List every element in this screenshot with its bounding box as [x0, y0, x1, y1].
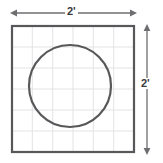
arrowhead-down-icon	[144, 148, 151, 155]
arrowhead-right-icon	[130, 10, 137, 17]
height-dimension-label: 2'	[139, 78, 152, 89]
arrowhead-up-icon	[144, 24, 151, 31]
arrowhead-left-icon	[10, 10, 17, 17]
height-dimension	[144, 24, 151, 155]
width-dimension-label: 2'	[65, 6, 78, 17]
diagram-canvas: 2' 2'	[0, 0, 163, 163]
